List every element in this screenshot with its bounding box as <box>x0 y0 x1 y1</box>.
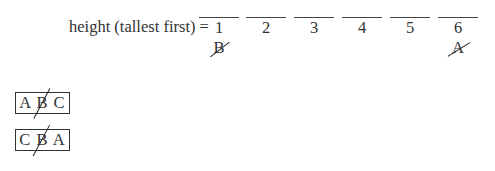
slot-number: 3 <box>294 18 334 38</box>
slot-1: 1 B <box>199 17 239 57</box>
slot-2: 2 <box>246 17 286 57</box>
slot-number: 4 <box>342 18 382 38</box>
slot-number: 2 <box>246 18 286 38</box>
slot-4: 4 <box>342 17 382 57</box>
slot-number: 5 <box>390 18 430 38</box>
slot-number: 1 <box>199 18 239 38</box>
slot-number: 6 <box>438 18 478 38</box>
slot-5: 5 <box>390 17 430 57</box>
slot-3: 3 <box>294 17 334 57</box>
slot-6: 6 A <box>438 17 478 57</box>
equation-label: height (tallest first) = <box>69 17 209 37</box>
